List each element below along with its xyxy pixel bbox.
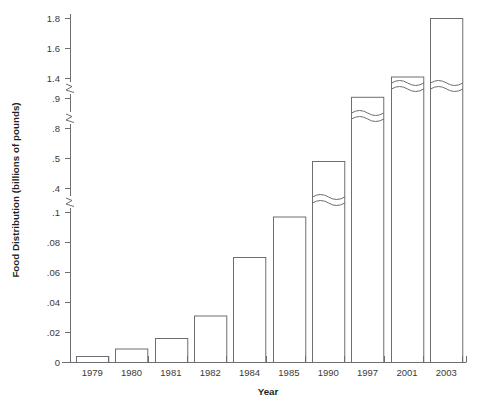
bar-1981[interactable] (156, 339, 188, 363)
y-axis-title-text: Food Distribution (billions of pounds) (10, 102, 21, 277)
y-tick-label: 0 (55, 357, 60, 368)
y-tick-labels: 1.8 1.6 1.4 .9 .8 .5 .4 .1 .08 .06 .04 .… (47, 13, 60, 368)
y-tick-label: .1 (52, 207, 60, 218)
bars-group (77, 19, 463, 363)
x-tick-label-1981: 1981 (160, 367, 181, 378)
y-tick-label: .8 (52, 123, 60, 134)
bar-2001[interactable] (392, 77, 424, 363)
y-tick-label: .5 (52, 153, 60, 164)
x-tick-label-2003: 2003 (436, 367, 457, 378)
x-tick-label-1980: 1980 (121, 367, 142, 378)
bar-1982[interactable] (195, 316, 227, 363)
bar-chart-svg: Food Distribution (billions of pounds) 1… (0, 0, 477, 405)
x-tick-label-1979: 1979 (82, 367, 103, 378)
y-tick-label: .9 (52, 93, 60, 104)
y-tick-label: .06 (47, 267, 60, 278)
y-tick-label: .4 (52, 183, 60, 194)
chart-container: Food Distribution (billions of pounds) 1… (0, 0, 477, 405)
bar-2003[interactable] (431, 19, 463, 363)
x-axis-title-text: Year (258, 386, 279, 397)
x-tick-label-1982: 1982 (200, 367, 221, 378)
bar-1985[interactable] (274, 217, 306, 363)
y-axis-title: Food Distribution (billions of pounds) (10, 102, 21, 277)
y-tick-label: .08 (47, 237, 60, 248)
x-tick-label-1984: 1984 (239, 367, 260, 378)
y-tick-label: .04 (47, 297, 60, 308)
y-tick-label: 1.8 (47, 13, 60, 24)
bar-1980[interactable] (116, 349, 148, 363)
y-tick-label: 1.4 (47, 73, 60, 84)
bar-1979[interactable] (77, 357, 109, 363)
y-tick-label: 1.6 (47, 43, 60, 54)
x-tick-label-1997: 1997 (357, 367, 378, 378)
x-tick-label-2001: 2001 (396, 367, 417, 378)
y-tick-label: .02 (47, 327, 60, 338)
x-tick-label-1985: 1985 (278, 367, 299, 378)
bar-1997[interactable] (352, 97, 384, 362)
bar-1984[interactable] (234, 258, 266, 363)
x-tick-label-1990: 1990 (318, 367, 339, 378)
bar-1990[interactable] (313, 162, 345, 363)
x-tick-labels: 1979 1980 1981 1982 1984 1985 1990 1997 … (82, 367, 457, 378)
y-tick-marks (65, 19, 71, 363)
